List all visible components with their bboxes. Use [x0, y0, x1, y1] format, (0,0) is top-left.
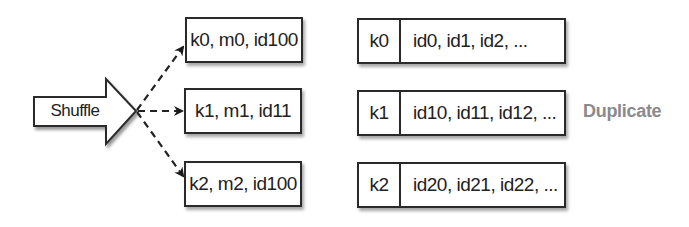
group-values-1: id10, id11, id12, ...	[401, 92, 564, 134]
shuffle-label: Shuffle	[40, 100, 110, 122]
group-key-2: k2	[359, 164, 401, 206]
diagram-canvas: Shuffle k0, m0, id100 k1, m1, id11 k2, m…	[0, 0, 689, 227]
group-key-1: k1	[359, 92, 401, 134]
group-key-0: k0	[359, 20, 401, 62]
group-box-0: k0 id0, id1, id2, ...	[357, 18, 566, 64]
record-box-2: k2, m2, id100	[184, 161, 302, 207]
connector-to-record-0	[137, 47, 183, 110]
group-values-2: id20, id21, id22, ...	[401, 164, 564, 206]
duplicate-annotation: Duplicate	[583, 101, 661, 122]
group-box-2: k2 id20, id21, id22, ...	[357, 162, 566, 208]
record-box-1: k1, m1, id11	[184, 88, 302, 134]
record-box-0: k0, m0, id100	[185, 17, 303, 63]
connector-to-record-2	[137, 112, 183, 176]
group-box-1: k1 id10, id11, id12, ...	[357, 90, 566, 136]
group-values-0: id0, id1, id2, ...	[401, 20, 564, 62]
